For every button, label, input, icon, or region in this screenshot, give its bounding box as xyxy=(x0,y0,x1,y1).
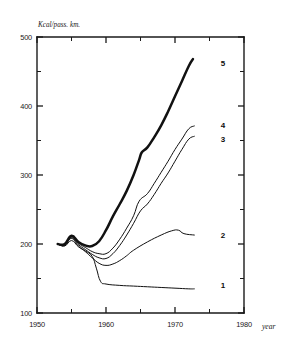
y-axis-tick-labels: 100200300400500 xyxy=(20,33,32,318)
x-tick-label: 1950 xyxy=(29,320,45,329)
data-series-group xyxy=(58,59,195,289)
series-label-4: 4 xyxy=(221,121,226,130)
y-tick-label: 100 xyxy=(20,309,32,318)
y-tick-label: 400 xyxy=(20,102,32,111)
series-label-3: 3 xyxy=(221,135,226,144)
series-label-2: 2 xyxy=(221,231,226,240)
x-axis-tick-labels: 1950196019701980 xyxy=(29,320,252,329)
series-label-1: 1 xyxy=(221,281,226,290)
x-tick-label: 1970 xyxy=(167,320,183,329)
axis-frame xyxy=(37,37,244,313)
x-axis-title: year xyxy=(261,322,276,331)
y-tick-label: 300 xyxy=(20,171,32,180)
y-axis-ticks xyxy=(37,37,244,313)
line-chart: Kcal/pass. km. 100200300400500 195019601… xyxy=(0,0,284,352)
x-axis-ticks xyxy=(37,37,244,313)
series-label-5: 5 xyxy=(221,59,226,68)
series-curve-1 xyxy=(58,241,195,289)
x-tick-label: 1960 xyxy=(98,320,114,329)
series-label-group: 54321 xyxy=(221,59,226,290)
y-axis-unit-label: Kcal/pass. km. xyxy=(37,21,80,29)
y-tick-label: 200 xyxy=(20,240,32,249)
x-tick-label: 1980 xyxy=(236,320,252,329)
chart-figure: Kcal/pass. km. 100200300400500 195019601… xyxy=(0,0,284,352)
y-tick-label: 500 xyxy=(20,33,32,42)
